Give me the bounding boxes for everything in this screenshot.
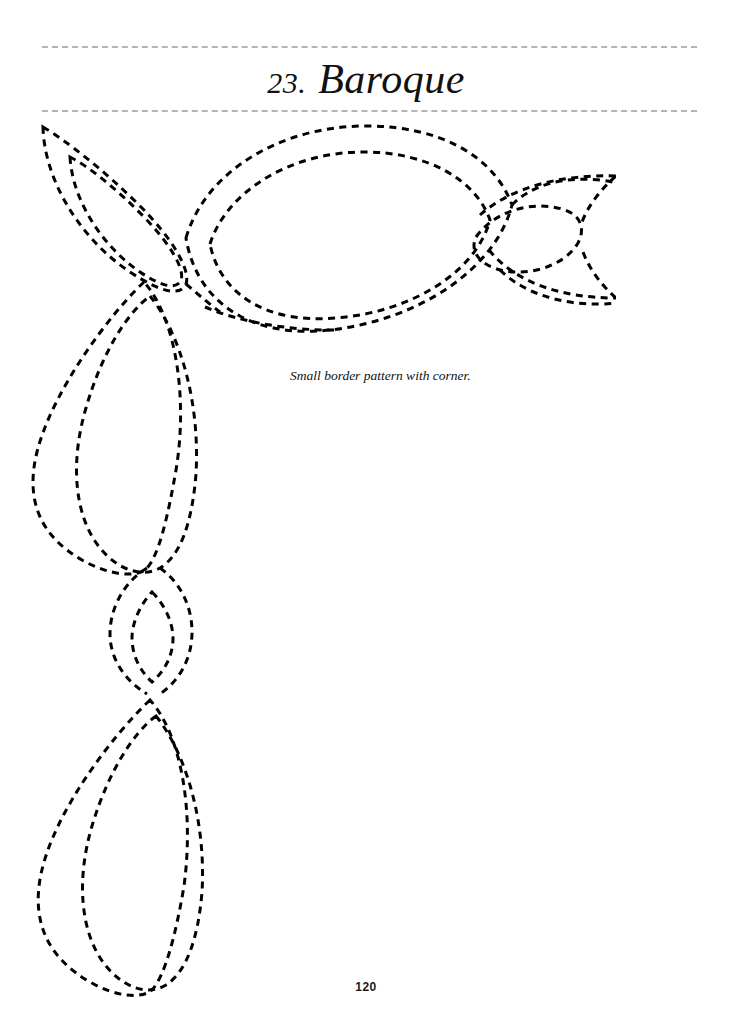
middle-pinch-leaf-right bbox=[160, 568, 192, 694]
pattern-book-page: 23.Baroque bbox=[0, 0, 732, 1027]
right-leaf-clipped-lower bbox=[489, 250, 616, 298]
top-horizontal-oval-inner bbox=[210, 152, 490, 319]
middle-pinch-leaf-left bbox=[110, 568, 147, 694]
corner-leaf-upper-left-outer bbox=[43, 127, 187, 291]
baroque-pattern-artwork bbox=[0, 0, 732, 1027]
artwork-caption: Small border pattern with corner. bbox=[290, 368, 471, 384]
left-vertical-leaf-lower-outer bbox=[38, 700, 187, 995]
corner-leaf-upper-left-inner bbox=[70, 157, 182, 286]
right-small-oval bbox=[474, 206, 581, 272]
left-vertical-leaf-upper-outer bbox=[33, 282, 181, 574]
right-leaf-clipped-edge-lower bbox=[583, 252, 616, 298]
middle-small-vertical-oval bbox=[132, 592, 173, 682]
page-number: 120 bbox=[0, 980, 732, 994]
right-outer-swoop-top bbox=[512, 179, 616, 205]
corner-to-chain-connector-left bbox=[186, 284, 220, 312]
top-horizontal-oval-outer bbox=[186, 126, 512, 331]
